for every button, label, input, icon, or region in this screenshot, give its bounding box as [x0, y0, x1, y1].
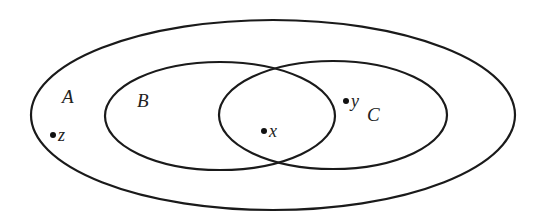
set-c-label: C [367, 104, 380, 125]
set-a-label: A [60, 86, 74, 107]
set-a-outline [31, 20, 515, 210]
set-c-outline [219, 61, 447, 169]
venn-diagram: A B C z x y [0, 0, 544, 218]
point-x-label: x [268, 121, 277, 141]
set-b-label: B [137, 90, 149, 111]
point-x-dot [261, 128, 267, 134]
point-z-label: z [57, 125, 65, 145]
point-z-dot [50, 132, 56, 138]
point-y-dot [343, 98, 349, 104]
point-y-label: y [349, 91, 359, 111]
